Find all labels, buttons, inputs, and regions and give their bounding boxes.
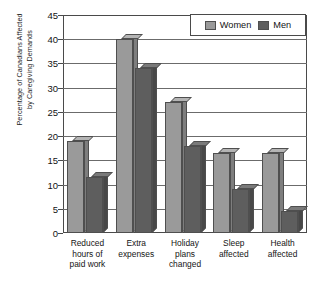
y-axis-tick-mark [58, 39, 63, 40]
y-axis-tick-label: 20 [30, 131, 58, 142]
bar-chart: Percentage of Canadians Affected by Care… [0, 0, 316, 286]
chart-legend: Women Men [190, 14, 306, 36]
y-axis-tick-label: 40 [30, 34, 58, 45]
x-axis-label: Reduced hours of paid work [63, 238, 112, 270]
gridline [63, 112, 307, 113]
y-axis-tick-label: 25 [30, 106, 58, 117]
gridline [63, 88, 307, 89]
y-axis-tick-label: 5 [30, 203, 58, 214]
y-axis-tick-mark [58, 88, 63, 89]
y-axis-tick-label: 0 [30, 228, 58, 239]
gridline [63, 39, 307, 40]
legend-swatch-women-icon [205, 21, 216, 30]
x-axis-label: Health affected [258, 238, 307, 259]
y-axis-tick-mark [58, 63, 63, 64]
y-axis-tick-label: 30 [30, 82, 58, 93]
legend-label-men: Men [273, 20, 291, 30]
legend-item-women: Women [205, 20, 252, 30]
y-axis-tick-mark [58, 136, 63, 137]
y-axis-tick-label: 35 [30, 58, 58, 69]
gridline [63, 160, 307, 161]
x-axis-label: Sleep affected [209, 238, 258, 259]
y-axis-tick-label: 45 [30, 10, 58, 21]
legend-item-men: Men [258, 20, 291, 30]
legend-swatch-men-icon [258, 21, 269, 30]
legend-label-women: Women [220, 20, 252, 30]
y-axis-tick-mark [58, 112, 63, 113]
gridline [63, 63, 307, 64]
plot-area [63, 15, 307, 233]
gridline [63, 209, 307, 210]
y-axis-tick-mark [58, 160, 63, 161]
gridline [63, 136, 307, 137]
x-axis-label: Extra expenses [112, 238, 161, 259]
y-axis-tick-mark [58, 15, 63, 16]
y-axis-tick-label: 10 [30, 179, 58, 190]
x-axis-label: Holiday plans changed [161, 238, 210, 270]
y-axis-tick-mark [58, 209, 63, 210]
y-axis-tick-label: 15 [30, 155, 58, 166]
y-axis-tick-mark [58, 233, 63, 234]
y-axis-tick-mark [58, 185, 63, 186]
gridline [63, 185, 307, 186]
